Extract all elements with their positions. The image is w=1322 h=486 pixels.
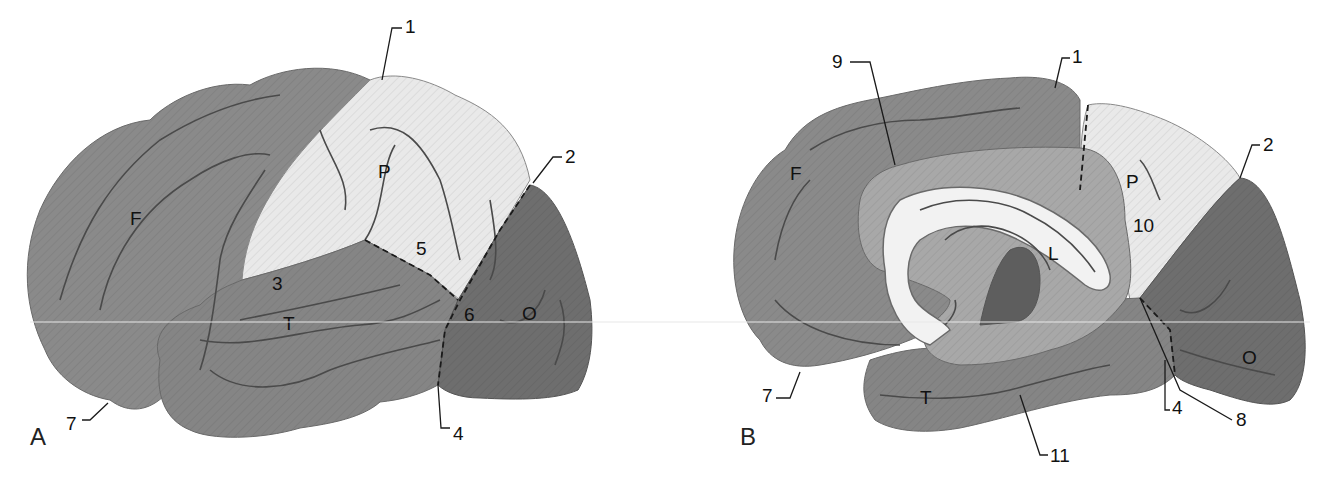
label-11: 11 xyxy=(1050,445,1070,466)
panel-label-a: A xyxy=(30,423,46,450)
temporal-lobe-label: T xyxy=(283,313,295,334)
brain-lobes-figure: F P T O 1 2 3 4 5 6 7 A xyxy=(0,0,1322,486)
label-1: 1 xyxy=(405,16,416,37)
label-8: 8 xyxy=(1236,409,1247,430)
label-9: 9 xyxy=(832,51,843,72)
label-1: 1 xyxy=(1072,46,1083,67)
label-7: 7 xyxy=(762,385,773,406)
label-5: 5 xyxy=(416,238,427,259)
label-4: 4 xyxy=(1172,397,1183,418)
label-2: 2 xyxy=(565,146,576,167)
panel-a-lateral-view: F P T O 1 2 3 4 5 6 7 A xyxy=(27,16,592,450)
panel-b-medial-view: F P T O L 1 2 4 7 8 9 10 11 B xyxy=(734,46,1305,466)
label-10: 10 xyxy=(1133,215,1154,236)
frontal-lobe-label: F xyxy=(790,163,802,184)
limbic-lobe-label: L xyxy=(1048,243,1059,264)
frontal-lobe-label: F xyxy=(130,208,142,229)
label-7: 7 xyxy=(66,413,77,434)
occipital-lobe-label: O xyxy=(522,303,537,324)
temporal-lobe-label: T xyxy=(920,387,932,408)
label-2: 2 xyxy=(1263,134,1274,155)
parietal-lobe-label: P xyxy=(1126,171,1139,192)
parietal-lobe-label: P xyxy=(378,161,391,182)
label-3: 3 xyxy=(272,273,283,294)
panel-label-b: B xyxy=(740,423,756,450)
label-4: 4 xyxy=(453,423,464,444)
occipital-lobe-label: O xyxy=(1242,347,1257,368)
